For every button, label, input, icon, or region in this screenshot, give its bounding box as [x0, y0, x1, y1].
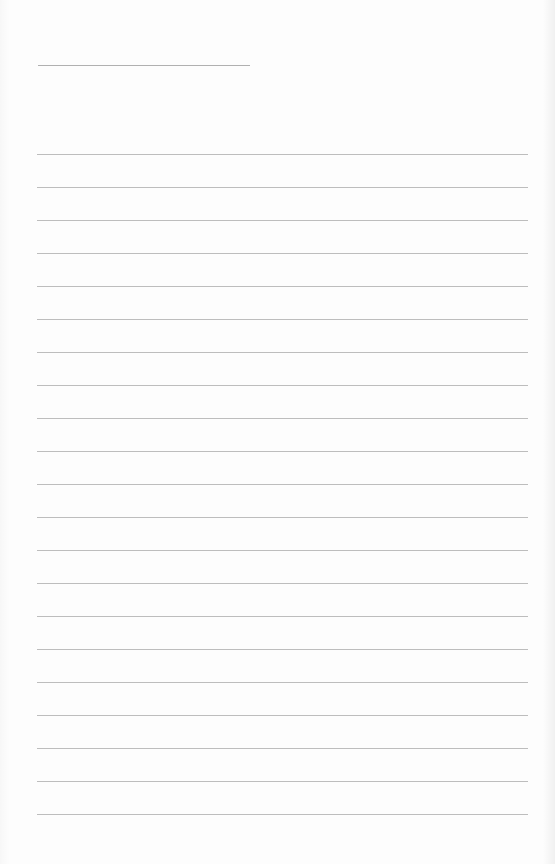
ruled-line	[37, 220, 528, 221]
ruled-line	[37, 451, 528, 452]
ruled-line	[37, 352, 528, 353]
ruled-line	[37, 154, 528, 155]
title-line	[38, 65, 250, 66]
ruled-line	[37, 385, 528, 386]
ruled-line	[37, 814, 528, 815]
ruled-line	[37, 550, 528, 551]
ruled-line	[37, 748, 528, 749]
paper-left-shadow	[0, 0, 10, 864]
ruled-line	[37, 781, 528, 782]
paper-right-shadow	[543, 0, 555, 864]
ruled-line	[37, 715, 528, 716]
ruled-line	[37, 616, 528, 617]
ruled-line	[37, 484, 528, 485]
ruled-line	[37, 649, 528, 650]
ruled-line	[37, 583, 528, 584]
ruled-line	[37, 517, 528, 518]
ruled-line	[37, 253, 528, 254]
ruled-line	[37, 286, 528, 287]
ruled-line	[37, 682, 528, 683]
ruled-line	[37, 418, 528, 419]
ruled-line	[37, 319, 528, 320]
ruled-line	[37, 187, 528, 188]
